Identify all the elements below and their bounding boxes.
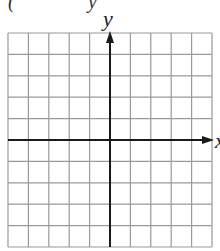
coordinate-grid xyxy=(0,0,220,251)
axes xyxy=(8,31,214,247)
